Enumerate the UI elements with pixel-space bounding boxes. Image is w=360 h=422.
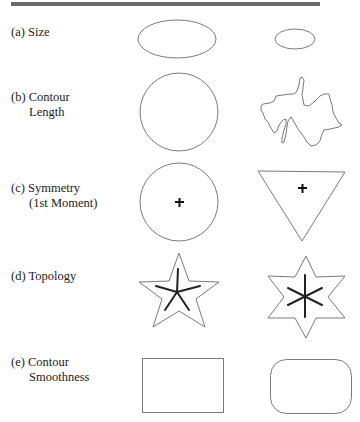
star-skeleton-5 [156,269,200,310]
shape-figure [0,0,360,422]
large-ellipse [138,20,216,58]
sharp-rectangle [143,359,224,413]
small-ellipse [275,29,315,49]
smooth-circle [140,73,218,151]
inverted-triangle [258,171,345,241]
centroid-plus-icon [298,184,307,193]
irregular-blob [261,77,342,146]
rounded-rectangle [271,360,352,414]
star-skeleton-6 [288,275,322,317]
five-point-star [139,253,219,327]
centroid-plus-icon [175,198,184,207]
